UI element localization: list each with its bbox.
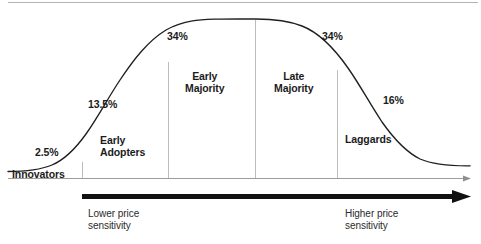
label-segment-early-majority: EarlyMajority xyxy=(185,70,224,95)
early-adopters-line2: Adopters xyxy=(100,146,145,158)
diagram-graphics xyxy=(0,0,481,244)
late-majority-line2: Majority xyxy=(274,82,313,94)
baseline-axis xyxy=(8,175,471,181)
label-percent-late-majority: 34% xyxy=(322,30,343,42)
early-majority-line1: Early xyxy=(192,70,217,82)
caption-lower-price-sensitivity: Lower pricesensitivity xyxy=(88,208,139,232)
adoption-curve-diagram: 2.5% Innovators 13.5% EarlyAdopters 34% … xyxy=(0,0,481,244)
label-percent-early-adopters: 13.5% xyxy=(88,98,117,110)
label-segment-late-majority: LateMajority xyxy=(274,70,313,95)
caption-higher-price-sensitivity: Higher pricesensitivity xyxy=(345,208,398,232)
label-percent-laggards: 16% xyxy=(383,94,404,106)
label-percent-early-majority: 34% xyxy=(167,30,188,42)
lower-price-line1: Lower price xyxy=(88,208,139,219)
label-percent-innovators: 2.5% xyxy=(35,146,59,158)
early-majority-line2: Majority xyxy=(185,82,224,94)
early-adopters-line1: Early xyxy=(100,134,125,146)
late-majority-line1: Late xyxy=(283,70,304,82)
label-segment-laggards: Laggards xyxy=(345,133,391,145)
label-segment-innovators: Innovators xyxy=(12,168,65,180)
price-sensitivity-arrow xyxy=(82,190,471,203)
higher-price-line1: Higher price xyxy=(345,208,398,219)
lower-price-line2: sensitivity xyxy=(88,220,131,231)
higher-price-line2: sensitivity xyxy=(345,220,388,231)
label-segment-early-adopters: EarlyAdopters xyxy=(100,134,145,159)
